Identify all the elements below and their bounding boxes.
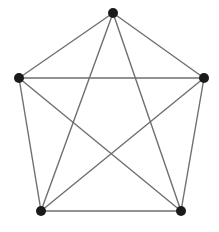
edge-layer — [19, 13, 204, 211]
graph-vertex-v1 — [108, 8, 118, 18]
graph-edge-v1-v2 — [113, 13, 204, 78]
graph-vertex-v3 — [176, 206, 186, 216]
graph-figure — [0, 0, 219, 232]
graph-canvas — [0, 0, 219, 232]
graph-edge-v1-v3 — [113, 13, 181, 211]
graph-vertex-v4 — [36, 206, 46, 216]
graph-edge-v2-v3 — [181, 78, 204, 211]
graph-edge-v3-v5 — [19, 78, 181, 211]
graph-edge-v4-v5 — [19, 78, 41, 211]
graph-vertex-v2 — [199, 73, 209, 83]
graph-vertex-v5 — [14, 73, 24, 83]
graph-edge-v5-v1 — [19, 13, 113, 78]
vertex-layer — [14, 8, 209, 216]
